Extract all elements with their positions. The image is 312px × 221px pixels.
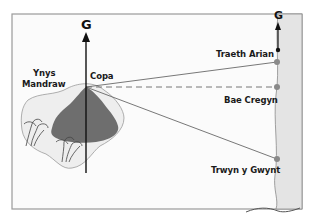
point-label-traeth-arian: Traeth Arian bbox=[216, 50, 274, 59]
island-name-line2: Mandraw bbox=[22, 80, 65, 89]
map-diagram bbox=[0, 0, 312, 221]
peak-label: Copa bbox=[90, 72, 114, 81]
north-origin-dot-icon bbox=[276, 48, 280, 52]
north-label-coast: G bbox=[274, 10, 283, 21]
point-label-bae-cregyn: Bae Cregyn bbox=[224, 96, 278, 105]
island-name-line1: Ynys bbox=[33, 69, 55, 78]
north-label-main: G bbox=[81, 18, 92, 31]
coastline bbox=[275, 14, 302, 209]
point-dot-trwyn-y-gwynt bbox=[274, 156, 280, 162]
point-dot-traeth-arian bbox=[274, 59, 280, 65]
point-label-trwyn-y-gwynt: Trwyn y Gwynt bbox=[211, 166, 280, 175]
point-dot-bae-cregyn bbox=[274, 84, 280, 90]
